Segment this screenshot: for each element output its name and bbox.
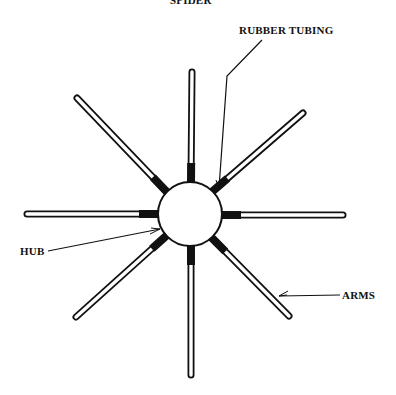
arm-top (191, 72, 192, 184)
hub-circle (158, 182, 222, 246)
spider-diagram: SPIDER RUBBER TUBING HUB ARMS (0, 0, 396, 395)
arm-upper-right (211, 113, 303, 192)
arms-label: ARMS (342, 289, 375, 301)
rubber-tubing-sleeve (153, 177, 168, 192)
rubber-tubing-label: RUBBER TUBING (239, 24, 334, 36)
diagram-title: SPIDER (170, 0, 212, 6)
rubber-tubing-sleeve (211, 237, 226, 252)
hub-leader (48, 229, 160, 251)
arm-lower-right (211, 237, 289, 316)
arm-upper-left (77, 98, 167, 192)
arms-leader (279, 295, 340, 296)
arms-arrowhead (279, 291, 288, 296)
arm-lower-left (76, 235, 167, 317)
rubber-tubing-sleeve (152, 235, 168, 249)
hub-label: HUB (20, 245, 45, 257)
